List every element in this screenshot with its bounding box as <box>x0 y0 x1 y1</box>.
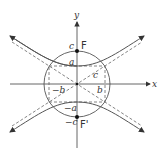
c-diagonal-label: c <box>93 70 98 80</box>
b-left-label: −b <box>52 85 66 95</box>
y-axis-label: y <box>73 10 80 20</box>
b-right-label: b <box>97 85 103 95</box>
origin-point <box>76 83 78 85</box>
focus-lower-label: F' <box>80 119 89 130</box>
a-lower-label: −a <box>64 103 77 113</box>
c-upper-label: c <box>69 41 74 51</box>
focus-upper-point <box>75 49 79 53</box>
hyperbola-diagram: y x F F' c −c a −a b −b c <box>0 0 165 153</box>
x-axis-label: x <box>152 79 157 89</box>
focus-upper-label: F <box>81 40 87 51</box>
c-lower-label: −c <box>65 117 78 127</box>
a-upper-label: a <box>69 57 74 67</box>
